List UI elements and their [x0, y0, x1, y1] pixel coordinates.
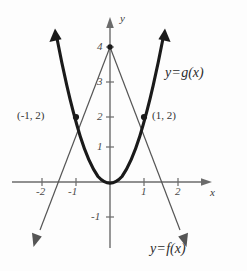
g-right-arrow-icon	[158, 29, 170, 43]
y-tick-label-2: 2	[97, 111, 103, 122]
y-axis-arrow-icon	[106, 17, 114, 28]
graph-figure: -2 -1 1 2 4 3 2 1 -1 x y (-1, 2) (1, 2) …	[0, 0, 247, 271]
x-tick-label-2: 2	[175, 186, 181, 197]
point-label-left: (-1, 2)	[17, 110, 45, 121]
g-left-arrow-icon	[49, 29, 61, 43]
function-label-f-eq: =	[156, 241, 166, 256]
x-axis-label: x	[210, 187, 215, 198]
x-axis-arrow-icon	[201, 178, 212, 186]
point-marker-neg1-2	[73, 114, 79, 120]
x-tick-label--2: -2	[36, 186, 45, 197]
y-axis-label: y	[120, 13, 125, 24]
y-tick-label-3: 3	[97, 76, 103, 87]
x-tick-label--1: -1	[68, 186, 77, 197]
y-tick-label-4: 4	[97, 41, 103, 52]
function-label-g-eq: =	[171, 65, 181, 80]
function-label-f: y=f(x)	[150, 242, 186, 256]
point-marker-0-4	[107, 44, 112, 49]
function-label-g: y=g(x)	[165, 66, 204, 80]
y-tick-label-1: 1	[97, 141, 103, 152]
function-label-g-fn: g(x)	[181, 65, 204, 80]
f-left-arrow-icon	[32, 233, 42, 247]
x-tick-label-1: 1	[141, 186, 147, 197]
point-marker-1-2	[141, 114, 147, 120]
y-tick-label--1: -1	[91, 211, 100, 222]
plot-canvas	[0, 0, 247, 271]
point-label-right: (1, 2)	[152, 110, 176, 121]
function-label-f-fn: f(x)	[166, 241, 185, 256]
